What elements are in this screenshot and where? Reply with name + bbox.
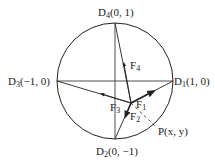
unit-circle-force-diagram: D4(0, 1) D3(−1, 0) D1(1, 0) D2(0, −1) F4… (0, 0, 215, 164)
label-d4: D4(0, 1) (98, 6, 134, 20)
label-f4: F4 (130, 59, 140, 73)
label-f1: F1 (136, 98, 146, 112)
diagram-canvas: D4(0, 1) D3(−1, 0) D1(1, 0) D2(0, −1) F4… (0, 0, 215, 164)
label-d3: D3(−1, 0) (8, 75, 50, 89)
label-d2: D2(0, −1) (96, 145, 138, 159)
label-p: P(x, y) (158, 125, 188, 138)
label-d1: D1(1, 0) (174, 75, 210, 89)
label-f2: F2 (130, 110, 140, 124)
label-f3: F3 (110, 101, 120, 115)
force-arrow-f3 (102, 94, 131, 103)
